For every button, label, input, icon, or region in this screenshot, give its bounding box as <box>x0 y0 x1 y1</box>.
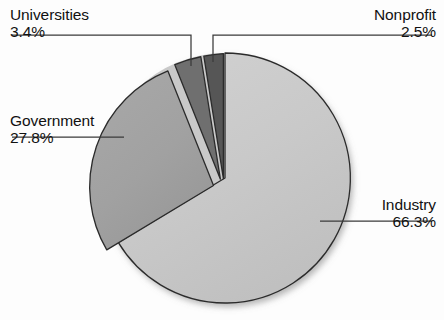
slice-label-industry-name: Industry <box>382 196 436 213</box>
slice-label-universities: Universities 3.4% <box>10 6 89 41</box>
slice-label-nonprofit-name: Nonprofit <box>374 6 436 23</box>
slice-label-government-name: Government <box>10 112 94 129</box>
slice-label-industry: Industry 66.3% <box>382 196 436 231</box>
slice-label-government-value: 27.8% <box>10 129 94 146</box>
slice-label-universities-value: 3.4% <box>10 23 89 40</box>
slice-label-government: Government 27.8% <box>10 112 94 147</box>
slice-label-industry-value: 66.3% <box>382 213 436 230</box>
slice-label-nonprofit: Nonprofit 2.5% <box>374 6 436 41</box>
slice-label-nonprofit-value: 2.5% <box>374 23 436 40</box>
slice-label-universities-name: Universities <box>10 6 89 23</box>
pie-chart-figure: Universities 3.4% Government 27.8% Nonpr… <box>0 0 444 320</box>
pie-chart-canvas <box>0 0 444 320</box>
